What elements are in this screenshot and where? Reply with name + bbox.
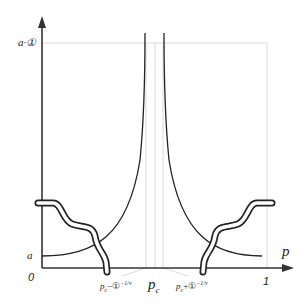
- x-axis-arrow-icon: [282, 264, 294, 272]
- y-label-a: a: [27, 250, 33, 261]
- x-end-label: 1: [263, 276, 269, 287]
- origin-label: 0: [28, 272, 34, 283]
- y-label-top: a·①: [18, 37, 36, 48]
- left-divergent-curve: [42, 33, 145, 256]
- axes: [38, 16, 294, 272]
- left-wavy-band: [38, 203, 107, 272]
- tick-sup: −1/ν: [196, 280, 207, 286]
- tick-main: p: [148, 276, 156, 292]
- tick-rest: −①: [107, 281, 120, 291]
- leader-left: [122, 268, 146, 276]
- tick-sup: −1/ν: [120, 280, 131, 286]
- right-wavy-band: [203, 203, 272, 272]
- tick-pc: pc: [148, 277, 160, 295]
- y-axis-arrow-icon: [38, 16, 46, 28]
- x-axis-label: p: [282, 244, 290, 259]
- tick-rest: +①: [183, 281, 196, 291]
- diagram-canvas: [0, 0, 305, 305]
- tick-pc-minus: pc−①−1/ν: [100, 280, 132, 293]
- tick-sub: c: [156, 285, 160, 295]
- guide-lines: [42, 43, 267, 276]
- leader-right: [163, 268, 188, 276]
- right-divergent-curve: [164, 33, 262, 256]
- tick-pc-plus: pc+①−1/ν: [176, 280, 208, 293]
